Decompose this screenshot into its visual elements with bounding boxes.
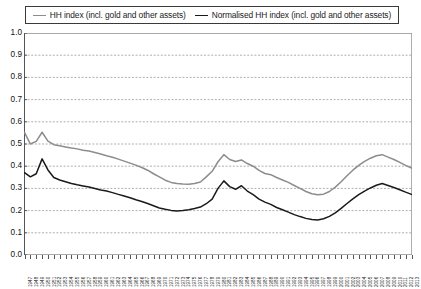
- x-axis-tick: [130, 255, 131, 259]
- x-axis-tick-label: 1962: [116, 277, 121, 287]
- x-axis-tick-label: 1999: [333, 277, 338, 287]
- x-axis-tick-label: 1984: [245, 277, 250, 287]
- x-axis-tick: [36, 255, 37, 259]
- x-axis-tick: [406, 255, 407, 259]
- y-axis-tick-label: 0.4: [2, 162, 22, 170]
- x-axis-tick: [329, 255, 330, 259]
- x-axis-tick-label: 2011: [403, 277, 408, 287]
- x-axis-labels: 1947194819491950195119521953195419551956…: [24, 260, 412, 289]
- x-axis-tick-label: 1971: [169, 277, 174, 287]
- x-axis-tick-label: 1987: [263, 277, 268, 287]
- x-axis-tick-label: 1947: [28, 277, 33, 287]
- x-axis-tick: [42, 255, 43, 259]
- chart-legend: HH index (incl. gold and other assets) N…: [25, 6, 399, 24]
- x-axis-tick: [324, 255, 325, 259]
- x-axis-tick: [318, 255, 319, 259]
- x-axis-tick: [107, 255, 108, 259]
- x-axis-tick: [124, 255, 125, 259]
- x-axis-tick-label: 1954: [69, 277, 74, 287]
- x-axis-tick: [101, 255, 102, 259]
- x-axis-tick-label: 1985: [251, 277, 256, 287]
- x-axis-tick: [288, 255, 289, 259]
- y-axis-tick-label: 0.0: [2, 251, 22, 259]
- x-axis-tick: [183, 255, 184, 259]
- x-axis-tick: [66, 255, 67, 259]
- x-axis-tick: [71, 255, 72, 259]
- x-axis-tick: [148, 255, 149, 259]
- x-axis-tick: [60, 255, 61, 259]
- x-axis-tick: [95, 255, 96, 259]
- x-axis-tick-label: 1981: [227, 277, 232, 287]
- legend-entry-hh-index: HH index (incl. gold and other assets): [33, 11, 186, 20]
- x-axis-tick: [412, 255, 413, 259]
- y-axis-tick-label: 0.7: [2, 96, 22, 104]
- x-axis-tick-label: 2009: [392, 277, 397, 287]
- x-axis-tick: [25, 255, 26, 259]
- x-axis-tick: [382, 255, 383, 259]
- x-axis-tick-label: 1958: [93, 277, 98, 287]
- x-axis-tick-label: 2005: [368, 277, 373, 287]
- y-axis-tick-label: 0.9: [2, 51, 22, 59]
- x-axis-tick: [189, 255, 190, 259]
- x-axis-tick-label: 2008: [386, 277, 391, 287]
- x-axis-tick: [224, 255, 225, 259]
- x-axis-tick-label: 1979: [216, 277, 221, 287]
- x-axis-tick: [206, 255, 207, 259]
- x-axis-tick: [54, 255, 55, 259]
- x-axis-tick: [30, 255, 31, 259]
- x-axis-tick: [230, 255, 231, 259]
- x-axis-tick-label: 1955: [75, 277, 80, 287]
- x-axis-tick: [142, 255, 143, 259]
- x-axis-tick: [277, 255, 278, 259]
- x-axis-tick: [241, 255, 242, 259]
- x-axis-tick: [247, 255, 248, 259]
- x-axis-tick-label: 1966: [140, 277, 145, 287]
- x-axis-tick: [370, 255, 371, 259]
- y-axis-tick-label: 0.3: [2, 184, 22, 192]
- x-axis-tick-label: 1964: [128, 277, 133, 287]
- x-axis-tick-label: 2006: [374, 277, 379, 287]
- x-axis-tick-label: 1968: [151, 277, 156, 287]
- x-axis-tick: [400, 255, 401, 259]
- x-axis-tick: [89, 255, 90, 259]
- x-axis-tick-label: 1973: [181, 277, 186, 287]
- plot-area: [24, 33, 412, 255]
- x-axis-tick: [112, 255, 113, 259]
- x-axis-tick: [136, 255, 137, 259]
- x-axis-tick: [306, 255, 307, 259]
- x-axis-tick: [159, 255, 160, 259]
- x-axis-ticks: [24, 255, 412, 259]
- x-axis-tick: [253, 255, 254, 259]
- x-axis-tick: [212, 255, 213, 259]
- x-axis-tick-label: 2000: [339, 277, 344, 287]
- chart-plot-svg: [24, 33, 412, 255]
- x-axis-tick: [394, 255, 395, 259]
- x-axis-tick-label: 1956: [81, 277, 86, 287]
- x-axis-tick: [271, 255, 272, 259]
- x-axis-tick: [359, 255, 360, 259]
- x-axis-tick-label: 1950: [46, 277, 51, 287]
- x-axis-tick: [347, 255, 348, 259]
- x-axis-tick-label: 1988: [269, 277, 274, 287]
- x-axis-tick-label: 2002: [351, 277, 356, 287]
- x-axis-tick-label: 1996: [315, 277, 320, 287]
- x-axis-tick-label: 1948: [34, 277, 39, 287]
- x-axis-tick-label: 2007: [380, 277, 385, 287]
- x-axis-tick: [312, 255, 313, 259]
- x-axis-tick: [283, 255, 284, 259]
- x-axis-tick: [265, 255, 266, 259]
- legend-entry-normalised-hh-index: Normalised HH index (incl. gold and othe…: [195, 11, 391, 20]
- x-axis-tick: [171, 255, 172, 259]
- x-axis-tick-label: 1978: [210, 277, 215, 287]
- x-axis-tick-label: 1967: [145, 277, 150, 287]
- x-axis-tick: [335, 255, 336, 259]
- x-axis-tick: [77, 255, 78, 259]
- x-axis-tick-label: 1977: [204, 277, 209, 287]
- y-axis: 1.00.90.80.70.60.50.40.30.20.10.0: [0, 33, 22, 255]
- x-axis-tick-label: 2003: [356, 277, 361, 287]
- x-axis-tick-label: 1976: [198, 277, 203, 287]
- legend-swatch-hh-index: [33, 15, 46, 16]
- y-axis-tick-label: 1.0: [2, 29, 22, 37]
- x-axis-tick: [388, 255, 389, 259]
- x-axis-tick-label: 1960: [104, 277, 109, 287]
